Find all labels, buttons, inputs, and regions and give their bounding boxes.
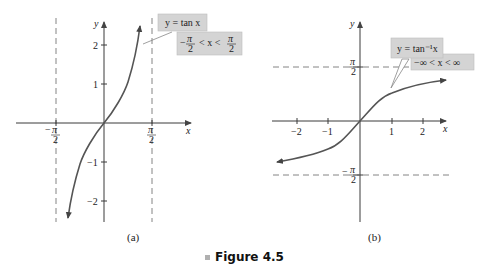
svg-text:2: 2 [53,134,58,145]
panel-a: 2 1 −1 −2 − π 2 π 2 x y y = tan x − π [16,14,242,222]
x-axis-label: x [442,123,448,134]
label-arctan: y = tan⁻¹x [397,43,438,54]
ytick-neg1: −1 [87,157,98,168]
xtick-neg-pi-over-2: − π 2 [45,124,60,145]
svg-text:−: − [180,37,186,48]
caption-bullet-icon [205,255,210,260]
panel-a-caption: (a) [127,231,139,243]
arctan-curve [360,80,446,121]
y-axis-label: y [349,18,355,29]
svg-text:2: 2 [229,43,234,54]
ytick-neg2: −2 [87,196,98,207]
xtick-neg2: −2 [291,126,302,137]
label-tan: y = tan x [165,17,200,28]
ytick-2: 2 [93,40,98,51]
xtick-2: 2 [420,126,425,137]
panel-b-caption: (b) [368,231,381,243]
annotation-pointer [143,32,172,44]
panel-b: −2 −1 1 2 x y π 2 − π 2 −∞ < x < ∞ y = t… [272,18,474,222]
ytick-neg-pi-over-2: − π 2 [342,164,357,185]
tan-curve-lower [68,123,104,218]
x-axis-label: x [185,125,191,136]
tan-curve [104,26,140,123]
svg-text:−: − [342,166,348,177]
svg-text:2: 2 [351,66,356,77]
xtick-neg1: −1 [322,126,333,137]
annotation-pointer [391,59,409,88]
svg-text:−: − [45,124,51,135]
ytick-pi-over-2: π 2 [349,56,357,77]
figure-canvas: 2 1 −1 −2 − π 2 π 2 x y y = tan x − π [0,0,488,277]
figure-caption-text: Figure 4.5 [215,250,284,264]
figure-caption: Figure 4.5 [205,250,284,264]
ytick-1: 1 [93,79,98,90]
domain-text-arctan: −∞ < x < ∞ [414,57,460,68]
svg-text:< x <: < x < [199,37,221,48]
xtick-pi-over-2: π 2 [147,124,156,145]
svg-text:2: 2 [188,43,193,54]
arctan-curve-lower [277,121,360,162]
svg-text:2: 2 [351,174,356,185]
svg-text:2: 2 [149,134,154,145]
xtick-1: 1 [389,126,394,137]
y-axis-label: y [93,18,99,29]
